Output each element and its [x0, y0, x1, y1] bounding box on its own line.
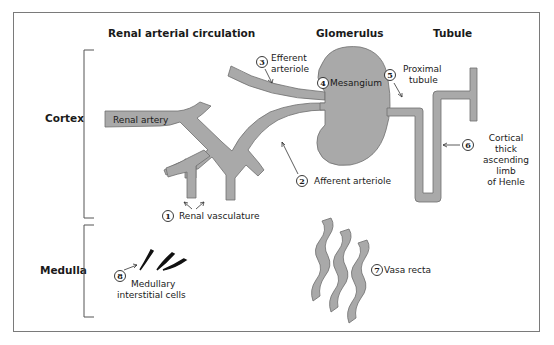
svg-text:tubule: tubule [409, 75, 438, 85]
cortex-bracket [84, 50, 94, 218]
callout-5-proximal-tubule: 5 Proximal tubule [385, 64, 442, 97]
svg-text:1: 1 [165, 211, 171, 221]
medullary-interstitial-cells [140, 250, 186, 270]
callout-8-medullary-interstitial-cells: 8 Medullary interstitial cells [115, 264, 187, 300]
callout-4-mesangium: 4 Mesangium [318, 78, 382, 89]
region-label-cortex: Cortex [45, 112, 84, 124]
callout-3-efferent-arteriole: 3 Efferent arteriole [257, 53, 310, 83]
svg-text:2: 2 [299, 176, 305, 186]
svg-text:interstitial cells: interstitial cells [117, 290, 186, 300]
svg-text:thick: thick [495, 144, 518, 154]
kidney-diagram: Renal arterial circulation Glomerulus Tu… [0, 0, 554, 345]
svg-text:of Henle: of Henle [487, 177, 525, 187]
svg-text:6: 6 [465, 140, 471, 150]
header-glomerulus: Glomerulus [316, 27, 383, 39]
region-label-medulla: Medulla [40, 264, 87, 276]
svg-text:8: 8 [117, 271, 123, 281]
glomerulus [317, 47, 390, 166]
svg-text:Proximal: Proximal [403, 64, 442, 74]
callout-6-cortical-thick-ascending-limb: 6 Cortical thick ascending limb of Henle [443, 133, 529, 187]
svg-text:3: 3 [259, 57, 265, 67]
svg-text:Efferent: Efferent [271, 53, 307, 63]
svg-text:5: 5 [387, 70, 393, 80]
tubule-loop-of-henle [387, 68, 477, 202]
svg-text:arteriole: arteriole [271, 64, 309, 74]
svg-text:Afferent arteriole: Afferent arteriole [314, 176, 392, 186]
svg-text:ascending: ascending [483, 155, 529, 165]
svg-text:Medullary: Medullary [131, 279, 176, 289]
renal-artery-label: Renal artery [113, 115, 169, 125]
svg-text:Vasa recta: Vasa recta [384, 265, 431, 275]
header-renal-arterial-circulation: Renal arterial circulation [108, 27, 255, 39]
callout-1-renal-vasculature: 1 Renal vasculature [163, 202, 260, 222]
callout-7-vasa-recta: 7 Vasa recta [372, 265, 432, 276]
header-tubule: Tubule [433, 27, 472, 39]
svg-text:4: 4 [320, 78, 326, 88]
svg-text:7: 7 [374, 265, 380, 275]
svg-text:Renal vasculature: Renal vasculature [179, 211, 260, 221]
svg-text:Cortical: Cortical [489, 133, 523, 143]
vasa-recta [312, 218, 370, 323]
svg-text:limb: limb [496, 166, 516, 176]
svg-text:Mesangium: Mesangium [330, 78, 382, 88]
